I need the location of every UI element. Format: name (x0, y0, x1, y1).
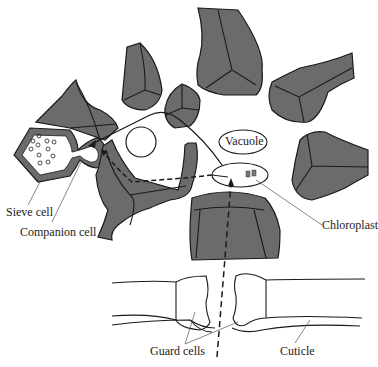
epidermis-left (112, 276, 210, 330)
chloroplast-2 (252, 170, 256, 176)
mesophyll-cell-bottom (190, 192, 280, 260)
mesophyll-cell-top (197, 8, 263, 95)
label-cuticle: Cuticle (280, 344, 315, 359)
leaf-cross-section-diagram: Vacuole Chloroplast Sieve cell Companion… (0, 0, 378, 367)
chloroplast-cell-outline (212, 163, 268, 187)
label-chloroplast: Chloroplast (322, 218, 378, 233)
epidermis-right (233, 274, 365, 326)
chloroplast-1 (246, 171, 250, 177)
leader-cuticle (295, 320, 310, 343)
label-guard-cells: Guard cells (150, 344, 205, 359)
mesophyll-cell-right (269, 53, 354, 122)
label-companion-cell: Companion cell (20, 225, 96, 240)
label-sieve-cell: Sieve cell (6, 205, 53, 220)
nucleus-circle (126, 127, 156, 157)
diagram-graphic (0, 0, 378, 367)
label-vacuole: Vacuole (225, 134, 264, 149)
leader-sieve-cell (28, 182, 40, 205)
